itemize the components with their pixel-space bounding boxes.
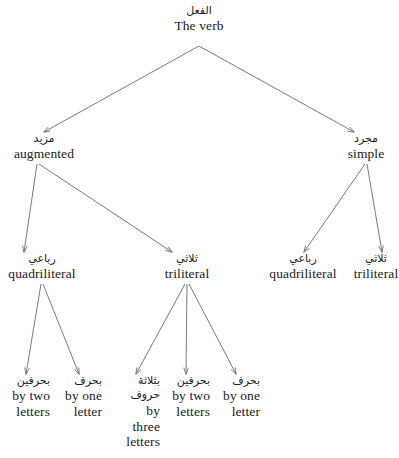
- node-root[interactable]: الفعل The verb: [174, 4, 223, 34]
- node-tri-by-two[interactable]: بحرفين by two letters: [165, 374, 210, 420]
- edge-quad-by-two: [26, 284, 41, 374]
- edge-tri-by-three: [136, 284, 185, 374]
- node-tri-by-two-english: by two letters: [165, 388, 210, 420]
- node-root-arabic: الفعل: [174, 4, 223, 18]
- edge-simple-triliteral: [367, 164, 382, 252]
- node-tri-by-three-english: by three letters: [120, 403, 160, 451]
- edge-simple-quadriliteral: [304, 164, 365, 252]
- node-tri-by-three-arabic: بثلاثة حروف: [120, 374, 160, 403]
- node-augmented-quadriliteral-english: quadriliteral: [8, 266, 75, 282]
- node-quad-by-two[interactable]: بحرفين by two letters: [4, 374, 50, 420]
- verb-classification-tree: الفعل The verb مزيد augmented مجرد simpl…: [0, 0, 399, 458]
- node-simple-english: simple: [348, 146, 385, 162]
- node-quad-by-one-english: by one letter: [57, 388, 102, 420]
- node-augmented-english: augmented: [14, 146, 74, 162]
- node-simple-triliteral-english: triliteral: [354, 266, 398, 282]
- node-augmented-quadriliteral-arabic: رباعي: [8, 252, 75, 266]
- edge-root-simple: [199, 46, 354, 132]
- node-augmented[interactable]: مزيد augmented: [14, 132, 74, 162]
- node-quad-by-two-english: by two letters: [4, 388, 50, 420]
- node-quad-by-two-arabic: بحرفين: [4, 374, 50, 388]
- node-simple-quadriliteral-english: quadriliteral: [269, 266, 336, 282]
- node-tri-by-one[interactable]: بحرف by one letter: [215, 374, 260, 420]
- node-root-english: The verb: [174, 18, 223, 34]
- edge-augmented-quadriliteral: [24, 164, 37, 252]
- node-tri-by-one-english: by one letter: [215, 388, 260, 420]
- edge-root-augmented: [44, 46, 199, 132]
- node-augmented-quadriliteral[interactable]: رباعي quadriliteral: [8, 252, 75, 282]
- node-simple[interactable]: مجرد simple: [348, 132, 385, 162]
- edge-tri-by-two: [186, 284, 187, 374]
- edge-tri-by-one: [189, 284, 236, 374]
- node-augmented-arabic: مزيد: [14, 132, 74, 146]
- node-tri-by-one-arabic: بحرف: [215, 374, 260, 388]
- node-quad-by-one-arabic: بحرف: [57, 374, 102, 388]
- node-simple-quadriliteral-arabic: رباعي: [269, 252, 336, 266]
- node-simple-quadriliteral[interactable]: رباعي quadriliteral: [269, 252, 336, 282]
- node-tri-by-two-arabic: بحرفين: [165, 374, 210, 388]
- node-simple-arabic: مجرد: [348, 132, 385, 146]
- node-augmented-triliteral-english: triliteral: [165, 266, 209, 282]
- node-quad-by-one[interactable]: بحرف by one letter: [57, 374, 102, 420]
- node-simple-triliteral[interactable]: ثلاثي triliteral: [354, 252, 398, 282]
- edge-augmented-triliteral: [39, 164, 172, 252]
- edge-quad-by-one: [43, 284, 79, 374]
- node-simple-triliteral-arabic: ثلاثي: [354, 252, 398, 266]
- node-augmented-triliteral[interactable]: ثلاثي triliteral: [165, 252, 209, 282]
- node-augmented-triliteral-arabic: ثلاثي: [165, 252, 209, 266]
- node-tri-by-three[interactable]: بثلاثة حروف by three letters: [120, 374, 160, 450]
